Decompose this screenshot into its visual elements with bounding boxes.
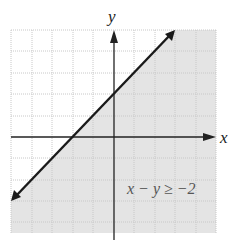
inequality-label: x − y ≥ −2 [126, 180, 196, 198]
inequality-graph: y x x − y ≥ −2 [0, 0, 229, 243]
y-axis-label: y [106, 7, 116, 26]
x-axis-label: x [219, 128, 228, 147]
y-axis-arrow-icon [110, 30, 118, 43]
